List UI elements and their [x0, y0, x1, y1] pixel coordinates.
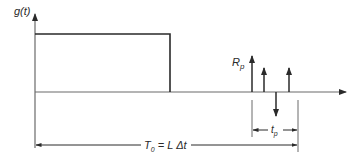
impulse-train [252, 56, 289, 116]
tp-dimension [252, 100, 298, 152]
signal-diagram: g(t) Rp tp T0 = L Δt [0, 0, 364, 158]
tp-label: tp [271, 124, 278, 138]
rectangular-pulse [35, 34, 170, 92]
pulse-amplitude-label: Rp [232, 56, 245, 71]
period-label: T0 = L Δt [144, 139, 188, 153]
y-axis-label: g(t) [14, 5, 31, 17]
